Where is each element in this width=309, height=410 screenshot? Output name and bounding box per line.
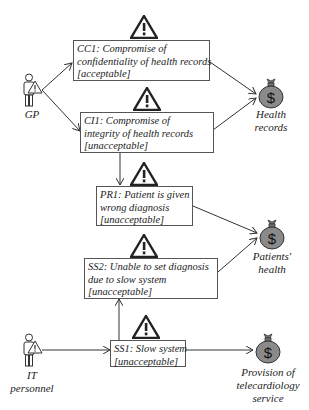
asset-label-patients-health: Patients' health	[222, 250, 309, 276]
incident-ci1[interactable]: CI1: Compromise of integrity of health r…	[80, 112, 214, 153]
risk-level: [unacceptable]	[100, 214, 189, 227]
risk-level: [unacceptable]	[88, 286, 214, 299]
warning-icon	[130, 234, 158, 258]
svg-text:$: $	[267, 89, 276, 106]
incident-ss2[interactable]: SS2: Unable to set diagnosis due to slow…	[84, 258, 218, 299]
risk-level: [unacceptable]	[84, 140, 210, 153]
risk-level: [unacceptable]	[114, 356, 182, 369]
edge-cc1-hr	[210, 62, 256, 94]
incident-title: SS2: Unable to set diagnosis	[88, 261, 214, 274]
incident-title: CC1: Compromise of	[77, 43, 206, 56]
warning-icon	[130, 15, 158, 39]
svg-text:$: $	[264, 344, 273, 361]
incident-text: wrong diagnosis	[100, 202, 189, 215]
incident-text: integrity of health records	[84, 128, 210, 141]
incident-pr1[interactable]: PR1: Patient is given wrong diagnosis [u…	[96, 186, 193, 226]
incident-title: PR1: Patient is given	[100, 189, 189, 202]
warning-icon	[130, 162, 158, 186]
incident-title: CI1: Compromise of	[84, 115, 210, 128]
gp-actor-icon[interactable]	[20, 73, 44, 107]
incident-cc1[interactable]: CC1: Compromise of confidentiality of he…	[73, 40, 210, 81]
edge-pr1-ph	[193, 206, 257, 233]
svg-text:$: $	[268, 230, 277, 247]
asset-label-health-records: Health records	[221, 108, 309, 134]
incident-text: due to slow system	[88, 274, 214, 287]
money-bag-icon[interactable]: $	[253, 332, 283, 364]
asset-label-telecardiology: Provision of telecardiology service	[218, 366, 309, 405]
it-personnel-actor-icon[interactable]	[20, 333, 44, 367]
money-bag-icon[interactable]: $	[257, 218, 287, 250]
actor-label-it: IT personnel	[0, 369, 72, 395]
risk-level: [acceptable]	[77, 68, 206, 81]
warning-icon	[133, 87, 161, 111]
incident-title: SS1: Slow system	[114, 343, 182, 356]
edge-gp-cc1	[42, 63, 72, 90]
incident-text: confidentiality of health records	[77, 56, 206, 69]
actor-label-gp: GP	[0, 108, 72, 121]
money-bag-icon[interactable]: $	[256, 77, 286, 109]
incident-ss1[interactable]: SS1: Slow system [unacceptable]	[110, 340, 186, 367]
warning-icon	[132, 315, 160, 339]
